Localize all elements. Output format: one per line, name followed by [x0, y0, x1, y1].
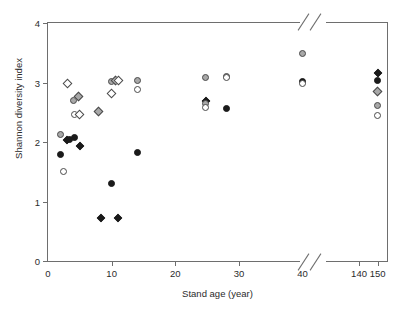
data-point: [134, 149, 141, 156]
data-point: [97, 213, 105, 221]
y-tick-label: 3: [35, 77, 40, 88]
plot-area: [48, 23, 387, 261]
x-tick-mark: [175, 261, 176, 266]
y-tick-mark: [43, 202, 48, 203]
data-point: [60, 168, 67, 175]
data-point: [134, 86, 141, 93]
x-tick-label: 20: [170, 268, 181, 279]
x-tick-label: 140: [351, 268, 367, 279]
y-tick-mark: [43, 261, 48, 262]
data-point: [202, 104, 209, 111]
data-point: [107, 88, 117, 98]
y-tick-label: 2: [35, 137, 40, 148]
data-point: [299, 80, 306, 87]
data-point: [76, 141, 84, 149]
x-tick-mark: [378, 261, 379, 266]
data-point: [57, 151, 64, 158]
data-point: [62, 79, 72, 89]
data-point: [108, 180, 115, 187]
data-point: [114, 213, 122, 221]
data-point: [223, 105, 230, 112]
x-axis-title: Stand age (year): [47, 288, 388, 299]
x-tick-mark: [112, 261, 113, 266]
x-axis-break-bottom: [296, 253, 330, 271]
data-point: [94, 107, 104, 117]
y-tick-mark: [43, 142, 48, 143]
data-point: [202, 74, 209, 81]
data-point: [373, 86, 383, 96]
x-tick-label: 10: [106, 268, 117, 279]
y-tick-label: 0: [35, 256, 40, 267]
y-tick-label: 1: [35, 196, 40, 207]
data-point: [71, 134, 78, 141]
x-tick-label: 30: [234, 268, 245, 279]
y-tick-mark: [43, 23, 48, 24]
y-axis-title: Shannon diversity index: [13, 29, 24, 189]
x-tick-label: 150: [370, 268, 386, 279]
data-point: [57, 131, 64, 138]
plot-frame: 01234010203040140150: [47, 22, 388, 262]
data-point: [223, 74, 230, 81]
x-tick-mark: [239, 261, 240, 266]
x-tick-mark: [359, 261, 360, 266]
x-tick-label: 0: [45, 268, 50, 279]
x-axis-break-top: [296, 13, 330, 31]
data-point: [299, 50, 306, 57]
data-point: [374, 77, 381, 84]
data-point: [134, 77, 141, 84]
data-point: [373, 69, 381, 77]
y-tick-label: 4: [35, 18, 40, 29]
data-point: [374, 102, 381, 109]
scatter-plot-figure: 01234010203040140150 Stand age (year) Sh…: [0, 0, 407, 310]
data-point: [374, 112, 381, 119]
y-tick-mark: [43, 83, 48, 84]
